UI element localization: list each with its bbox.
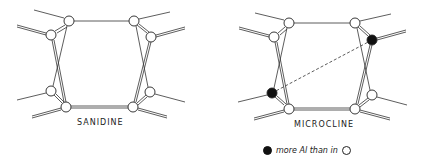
legend: more Al than in (263, 146, 351, 155)
open-circle-icon (342, 146, 351, 155)
sanidine-nodes (46, 16, 156, 112)
dashed-al-link (272, 40, 372, 93)
feldspar-diagram (0, 0, 422, 164)
microcline-label: MICROCLINE (294, 120, 354, 129)
sanidine-framework (17, 10, 185, 118)
legend-text: more Al than in (276, 146, 338, 155)
filled-circle-icon (263, 146, 272, 155)
sanidine-label: SANIDINE (77, 118, 124, 127)
